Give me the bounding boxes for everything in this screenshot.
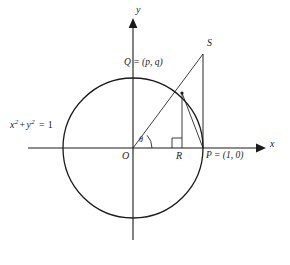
- point-marker-q: [180, 91, 183, 94]
- origin-label-o: O: [122, 151, 129, 161]
- circle-equation-label: x2+y2 = 1: [10, 119, 54, 130]
- chord-q-to-p: [182, 93, 203, 148]
- point-label-q: Q = (p, q): [124, 58, 163, 68]
- unit-circle-diagram: x2+y2 = 1 Q = (p, q) P = (1, 0) S O R θ …: [0, 0, 290, 265]
- y-axis-arrowhead: [129, 18, 138, 28]
- x-axis-arrowhead: [256, 144, 266, 153]
- angle-label-theta: θ: [139, 136, 143, 144]
- circle-equation-x-exponent: 2: [15, 118, 19, 126]
- y-axis-label: y: [136, 5, 140, 15]
- angle-arc-theta-icon: [147, 135, 152, 148]
- ray-origin-to-s: [133, 54, 203, 148]
- circle-equation-plus: +: [19, 119, 27, 130]
- diagram-canvas: [0, 0, 290, 265]
- right-angle-marker-icon: [172, 138, 182, 148]
- point-label-s: S: [207, 38, 212, 48]
- point-label-r: R: [176, 151, 182, 161]
- x-axis-label: x: [270, 139, 274, 149]
- circle-equation-y-exponent: 2: [31, 118, 35, 126]
- circle-equation-equals-one: = 1: [38, 119, 54, 130]
- point-label-p: P = (1, 0): [206, 151, 243, 161]
